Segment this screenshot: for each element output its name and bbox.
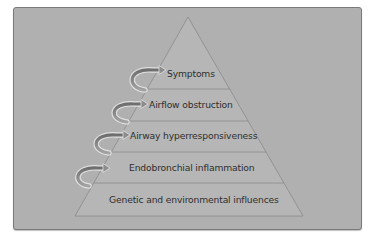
layer-label-airflow-obstruction: Airflow obstruction (149, 99, 233, 110)
layer-label-genetic-environmental: Genetic and environmental influences (109, 194, 279, 205)
layer-label-symptoms: Symptoms (167, 68, 215, 79)
pyramid-shape (75, 17, 303, 216)
layer-label-airway-hyperresponsiveness: Airway hyperresponsiveness (130, 130, 257, 141)
layer-label-endobronchial-inflammation: Endobronchial inflammation (129, 162, 254, 173)
